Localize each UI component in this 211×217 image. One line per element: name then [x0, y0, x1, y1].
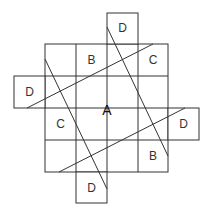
- cell-label-b-top: B: [87, 53, 95, 67]
- cell-label-c-top: C: [149, 53, 158, 67]
- outer-label-right: D: [179, 117, 188, 131]
- cell-label-c-left: C: [56, 117, 65, 131]
- center-label: A: [102, 102, 112, 118]
- cell-label-b-bottom: B: [149, 149, 157, 163]
- outer-label-bottom: D: [87, 181, 96, 195]
- tile-diagram: B C C B D D D D A: [0, 0, 211, 217]
- outer-label-left: D: [25, 85, 34, 99]
- outer-label-top: D: [118, 21, 127, 35]
